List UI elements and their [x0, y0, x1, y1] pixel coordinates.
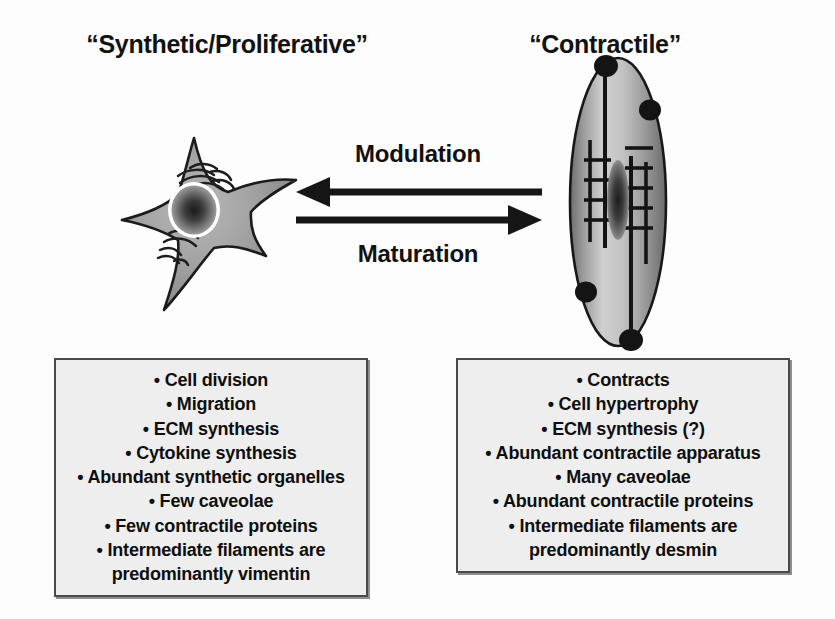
- scan-artifact: [60, 604, 64, 619]
- feature-item: • Many caveolae: [464, 465, 782, 489]
- feature-item: • Few contractile proteins: [62, 514, 360, 538]
- feature-box-contractile: • Contracts • Cell hypertrophy • ECM syn…: [456, 358, 790, 573]
- feature-box-synthetic: • Cell division • Migration • ECM synthe…: [54, 358, 368, 597]
- feature-item: • Abundant contractile proteins: [464, 489, 782, 513]
- feature-item: • Few caveolae: [62, 489, 360, 513]
- feature-item: • Migration: [62, 392, 360, 416]
- feature-item: • Abundant synthetic organelles: [62, 465, 360, 489]
- scan-artifact: [60, 96, 64, 116]
- feature-item: • Intermediate filaments are predominant…: [62, 538, 360, 587]
- phenotype-title-synthetic: “Synthetic/Proliferative”: [62, 30, 392, 59]
- feature-item: • ECM synthesis: [62, 417, 360, 441]
- feature-item: • Cell hypertrophy: [464, 392, 782, 416]
- arrow-label-maturation: Maturation: [288, 240, 548, 268]
- feature-item: • Cytokine synthesis: [62, 441, 360, 465]
- arrow-right-icon: [296, 204, 542, 236]
- arrow-label-modulation: Modulation: [288, 140, 548, 168]
- feature-item: • Cell division: [62, 368, 360, 392]
- feature-list-contractile: • Contracts • Cell hypertrophy • ECM syn…: [464, 368, 782, 562]
- feature-item: • Contracts: [464, 368, 782, 392]
- feature-item: • Abundant contractile apparatus: [464, 441, 782, 465]
- figure-canvas: “Synthetic/Proliferative” “Contractile”: [0, 0, 835, 619]
- spindle-contractile-cell-icon: [543, 52, 693, 352]
- feature-list-synthetic: • Cell division • Migration • ECM synthe…: [62, 368, 360, 587]
- feature-item: • ECM synthesis (?): [464, 417, 782, 441]
- feature-item: • Intermediate filaments are predominant…: [464, 514, 782, 563]
